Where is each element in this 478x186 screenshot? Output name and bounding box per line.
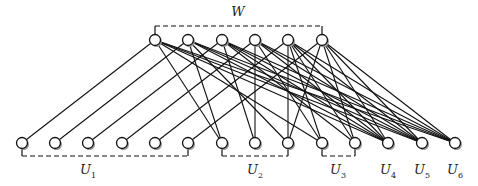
graph-canvas <box>0 0 478 186</box>
group-label-w-text: W <box>231 4 244 19</box>
group-label-text: U <box>380 162 391 177</box>
edge <box>155 40 322 143</box>
group-label-u1: U1 <box>80 162 96 180</box>
group-label-u3: U3 <box>330 162 346 180</box>
node-b3 <box>83 138 94 149</box>
edge <box>155 40 388 143</box>
node-b14 <box>450 138 461 149</box>
node-w2 <box>183 35 194 46</box>
node-b11 <box>350 138 361 149</box>
group-label-subscript: 4 <box>391 171 396 180</box>
group-label-text: U <box>80 162 91 177</box>
node-b6 <box>183 138 194 149</box>
node-b4 <box>117 138 128 149</box>
group-label-subscript: 2 <box>258 171 263 180</box>
edge <box>255 40 455 143</box>
edge <box>288 40 455 143</box>
node-b9 <box>283 138 294 149</box>
node-b5 <box>150 138 161 149</box>
edge <box>22 40 155 143</box>
node-w5 <box>283 35 294 46</box>
group-label-subscript: 1 <box>91 171 96 180</box>
node-w3 <box>217 35 228 46</box>
group-label-subscript: 5 <box>425 171 430 180</box>
group-label-subscript: 6 <box>458 171 463 180</box>
edge <box>155 40 222 143</box>
group-label-w: W <box>231 4 244 19</box>
node-b2 <box>50 138 61 149</box>
node-b13 <box>417 138 428 149</box>
node-w6 <box>317 35 328 46</box>
group-label-text: U <box>247 162 258 177</box>
group-label-u4: U4 <box>380 162 396 180</box>
group-label-u5: U5 <box>414 162 430 180</box>
group-label-u6: U6 <box>447 162 463 180</box>
group-label-u2: U2 <box>247 162 263 180</box>
node-w4 <box>250 35 261 46</box>
group-label-text: U <box>330 162 341 177</box>
group-label-subscript: 3 <box>341 171 346 180</box>
edge <box>155 40 288 143</box>
edge <box>155 40 455 143</box>
edge <box>222 40 455 143</box>
node-b7 <box>217 138 228 149</box>
node-w1 <box>150 35 161 46</box>
node-b1 <box>17 138 28 149</box>
edge <box>188 40 455 143</box>
node-b10 <box>317 138 328 149</box>
node-b12 <box>383 138 394 149</box>
edge <box>55 40 188 143</box>
group-label-text: U <box>414 162 425 177</box>
node-b8 <box>250 138 261 149</box>
edge <box>322 40 455 143</box>
edge <box>88 40 222 143</box>
bipartite-graph-diagram: W U1U2U3U4U5U6 <box>0 0 478 186</box>
group-label-text: U <box>447 162 458 177</box>
